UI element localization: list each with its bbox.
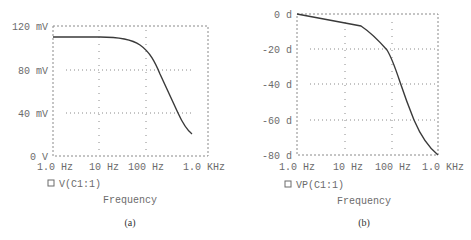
figure: 120 mV 80 mV 40 mV 0 V 1.0 Hz 10 Hz 100 … — [0, 0, 471, 240]
plot-a-xtick: 1.0 KHz — [183, 162, 225, 173]
plot-b-ytick: -60 d — [262, 116, 292, 127]
plot-b-xtick: 10 Hz — [333, 162, 363, 173]
plot-a-xtick: 1.0 Hz — [37, 162, 73, 173]
plot-a-xtick: 10 Hz — [89, 162, 119, 173]
plot-b-xtick: 1.0 KHz — [422, 162, 464, 173]
plot-b-legend-label: VP(C1:1) — [296, 180, 344, 191]
plot-a-frame — [53, 26, 208, 156]
plot-b-caption: (b) — [358, 217, 370, 229]
plot-a-caption: (a) — [124, 217, 135, 229]
plot-b-legend-square-icon — [285, 181, 291, 187]
plot-a-ytick: 80 mV — [18, 66, 48, 77]
plot-b-ytick: -80 d — [262, 151, 292, 162]
plot-b-xtick: 100 Hz — [375, 162, 411, 173]
plot-a: 120 mV 80 mV 40 mV 0 V 1.0 Hz 10 Hz 100 … — [12, 22, 225, 229]
plot-a-legend-square-icon — [48, 180, 54, 186]
plot-a-xtick: 100 Hz — [128, 162, 164, 173]
plot-b-ytick: -20 d — [262, 45, 292, 56]
plot-b-ytick: 0 d — [274, 10, 292, 21]
plot-b-ytick: -40 d — [262, 80, 292, 91]
plot-b-xlabel: Frequency — [337, 196, 391, 207]
plot-a-curve — [53, 37, 192, 134]
plot-b: 0 d -20 d -40 d -60 d -80 d 1.0 Hz 10 Hz… — [262, 10, 464, 229]
plot-a-legend-label: V(C1:1) — [59, 179, 101, 190]
plot-a-ytick: 120 mV — [12, 22, 48, 33]
plot-b-xtick: 1.0 Hz — [279, 162, 315, 173]
plot-a-xlabel: Frequency — [103, 195, 157, 206]
plot-a-ytick: 40 mV — [18, 109, 48, 120]
